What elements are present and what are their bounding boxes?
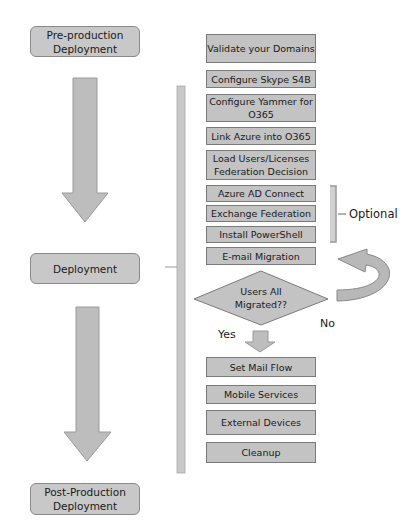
step-label: Set Mail Flow xyxy=(230,361,293,374)
step-label: Load Users/Licenses Federation Decision xyxy=(207,152,315,178)
step-cleanup: Cleanup xyxy=(206,442,316,463)
step-external-devices: External Devices xyxy=(206,410,316,435)
step-link-azure: Link Azure into O365 xyxy=(206,127,316,145)
optional-label: Optional xyxy=(349,207,398,221)
step-label: Exchange Federation xyxy=(211,207,311,220)
step-label: Link Azure into O365 xyxy=(211,130,310,143)
phase-deployment: Deployment xyxy=(30,253,140,284)
phase-label: Pre-production Deployment xyxy=(47,28,124,56)
step-label: Azure AD Connect xyxy=(218,187,304,200)
down-arrow-2 xyxy=(64,307,111,461)
step-validate-domains: Validate your Domains xyxy=(206,34,316,63)
step-azure-ad-connect: Azure AD Connect xyxy=(206,185,316,202)
phase-label: Post-Production Deployment xyxy=(44,485,126,513)
phase-label: Deployment xyxy=(53,262,117,276)
optional-bracket xyxy=(330,186,336,242)
yes-label: Yes xyxy=(218,328,236,341)
step-label: Mobile Services xyxy=(224,388,298,401)
step-label: External Devices xyxy=(221,416,301,429)
phase-post-production: Post-Production Deployment xyxy=(30,483,140,515)
deployment-brace-bar xyxy=(177,86,185,473)
down-arrow-1 xyxy=(62,78,108,222)
yes-arrow xyxy=(245,331,275,352)
step-label: Validate your Domains xyxy=(207,42,315,55)
step-label: Cleanup xyxy=(241,446,280,459)
loop-back-arrow xyxy=(337,249,390,301)
step-label: E-mail Migration xyxy=(222,250,300,263)
step-load-users: Load Users/Licenses Federation Decision xyxy=(206,150,316,180)
step-email-migration: E-mail Migration xyxy=(206,247,316,265)
step-label: Configure Skype S4B xyxy=(211,73,310,86)
phase-pre-production: Pre-production Deployment xyxy=(30,26,140,57)
decision-label: Users All Migrated?? xyxy=(226,285,296,311)
step-configure-yammer: Configure Yammer for O365 xyxy=(206,94,316,122)
step-mobile-services: Mobile Services xyxy=(206,385,316,404)
no-label: No xyxy=(320,317,335,330)
step-exchange-federation: Exchange Federation xyxy=(206,205,316,222)
step-configure-skype: Configure Skype S4B xyxy=(206,70,316,88)
step-set-mail-flow: Set Mail Flow xyxy=(206,357,316,377)
step-label: Configure Yammer for O365 xyxy=(207,95,315,121)
step-install-powershell: Install PowerShell xyxy=(206,226,316,243)
step-label: Install PowerShell xyxy=(219,228,303,241)
